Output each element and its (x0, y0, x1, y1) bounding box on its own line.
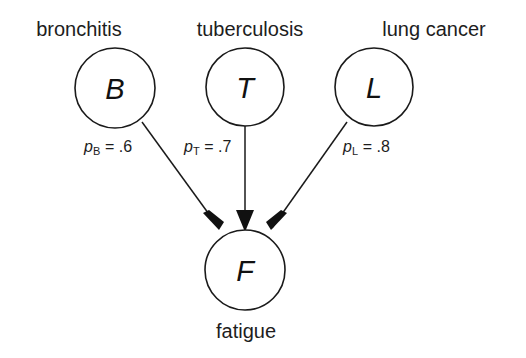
diagram-canvas: B bronchitis T tuberculosis L lung cance… (0, 0, 526, 358)
param-variable-bronchitis: p (84, 138, 93, 155)
param-variable-tuberculosis: p (184, 138, 193, 155)
param-variable-lung-cancer: p (343, 138, 352, 155)
param-value-bronchitis: = .6 (100, 138, 132, 155)
node-label-tuberculosis: tuberculosis (197, 18, 304, 40)
param-value-lung-cancer: = .8 (358, 138, 390, 155)
node-letter-fatigue: F (236, 255, 256, 287)
edge-param-label-lung-cancer: pL = .8 (343, 139, 390, 157)
arrowhead-tuberculosis-to-fatigue (236, 210, 254, 232)
node-label-bronchitis: bronchitis (36, 18, 122, 40)
param-subscript-tuberculosis: T (193, 145, 200, 157)
node-letter-lung-cancer: L (366, 72, 382, 104)
node-letter-bronchitis: B (105, 73, 124, 105)
arrowhead-lungcancer-to-fatigue (266, 210, 287, 230)
node-label-fatigue: fatigue (216, 320, 276, 342)
network-diagram-svg: B bronchitis T tuberculosis L lung cance… (0, 0, 526, 358)
param-value-tuberculosis: = .7 (200, 138, 232, 155)
node-label-lung-cancer: lung cancer (382, 18, 486, 40)
edge-param-label-tuberculosis: pT = .7 (184, 139, 231, 157)
node-letter-tuberculosis: T (236, 72, 256, 104)
edge-param-label-bronchitis: pB = .6 (84, 139, 132, 157)
arrowhead-bronchitis-to-fatigue (203, 210, 224, 230)
